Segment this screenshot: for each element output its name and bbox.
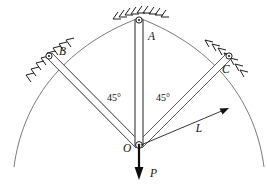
- label-joint-a: A: [147, 30, 156, 42]
- hatch-tick: [66, 40, 71, 47]
- hatch-tick: [31, 67, 39, 69]
- hatch-tick: [113, 12, 118, 19]
- hatch-tick: [131, 7, 136, 14]
- label-joint-c: C: [222, 63, 230, 75]
- pin-c-inner: [228, 55, 230, 57]
- bar-oc-edge-lower: [142, 59, 231, 148]
- bar-oc-edge-upper: [137, 54, 226, 143]
- bar-ob-body: [47, 53, 141, 148]
- bar-oa-body: [135, 19, 143, 146]
- pin-b-inner: [48, 55, 50, 57]
- label-length-l: L: [195, 122, 202, 134]
- label-angle-left: 45°: [107, 92, 121, 103]
- hatch-tick: [149, 7, 154, 14]
- force-p-arrowhead: [135, 167, 144, 180]
- hatch-tick: [125, 8, 130, 15]
- truss-diagram-svg: A B C O L P 45° 45°: [0, 0, 267, 189]
- bar-ob-edge-lower: [47, 58, 136, 148]
- pin-o-inner: [138, 144, 141, 147]
- label-joint-b: B: [59, 45, 66, 57]
- label-angle-right: 45°: [156, 92, 170, 103]
- pin-joint-b: [46, 53, 52, 59]
- pin-joint-c: [226, 53, 232, 59]
- pin-a-inner: [138, 19, 140, 21]
- dimension-l-arrowhead: [220, 108, 230, 114]
- hatch-tick: [137, 6, 142, 13]
- figure-canvas: A B C O L P 45° 45°: [0, 0, 267, 189]
- hatch-tick: [36, 63, 41, 70]
- bar-ob: [47, 53, 141, 148]
- hatch-tick: [26, 75, 31, 82]
- hatch-tick: [31, 69, 36, 76]
- bar-ob-edge-upper: [52, 53, 141, 143]
- hatch-tick: [66, 38, 74, 40]
- hatch-tick: [161, 10, 166, 17]
- bar-oc: [137, 54, 231, 148]
- force-vector-p: [135, 146, 144, 180]
- label-joint-o: O: [123, 142, 132, 154]
- hatch-tick: [119, 10, 124, 17]
- pin-joint-a: [136, 17, 142, 23]
- bar-oa: [135, 19, 143, 146]
- hatch-tick: [155, 8, 160, 15]
- hatch-tick: [143, 6, 148, 13]
- label-force-p: P: [149, 167, 157, 179]
- bar-oc-body: [137, 54, 231, 148]
- hatch-tick: [59, 42, 67, 44]
- hatch-tick: [26, 73, 34, 75]
